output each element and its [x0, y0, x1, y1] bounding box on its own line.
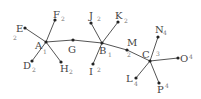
node-label: C — [142, 49, 150, 60]
node-n: N4 — [155, 24, 167, 39]
edge-a-h — [46, 42, 61, 62]
edge-a-g — [46, 40, 73, 42]
node-label: E — [16, 23, 23, 34]
node-subscript: 2 — [124, 17, 128, 24]
node-subscript: 2 — [13, 34, 17, 41]
node-k: K2 — [115, 10, 128, 24]
node-label: I — [89, 66, 93, 77]
edge-g-b — [73, 40, 102, 43]
node-subscript: 2 — [97, 15, 101, 22]
node-g: G — [68, 38, 76, 55]
node-subscript: 2 — [32, 66, 36, 73]
node-i: I2 — [89, 62, 101, 77]
node-subscript: 2 — [69, 68, 73, 75]
node-subscript: 4 — [165, 82, 169, 89]
node-a: A1 — [34, 40, 48, 55]
node-j: J2 — [88, 10, 101, 25]
node-label: F — [53, 9, 60, 20]
node-label: D — [23, 60, 31, 71]
node-d: D2 — [23, 59, 36, 73]
node-subscript: 1 — [43, 48, 47, 55]
node-p: P4 — [157, 81, 169, 95]
node-f: F2 — [53, 9, 65, 22]
node-subscript: 1 — [108, 51, 112, 58]
node-dot — [156, 35, 159, 38]
nodes-group: A1B1C3D2E2F2GH2I2J2K2L4M2N4O4P4 — [13, 9, 193, 95]
node-label: J — [88, 10, 93, 21]
node-o: O4 — [176, 53, 193, 64]
node-subscript: 4 — [134, 80, 138, 87]
edge-b-j — [91, 23, 102, 43]
node-subscript: 4 — [163, 29, 167, 36]
edge-c-o — [150, 58, 178, 61]
node-label: B — [99, 45, 106, 56]
edge-c-n — [150, 37, 158, 61]
edge-a-f — [46, 20, 55, 42]
node-label: P — [157, 84, 164, 95]
node-dot — [89, 21, 92, 24]
tree-diagram: A1B1C3D2E2F2GH2I2J2K2L4M2N4O4P4 — [0, 0, 201, 99]
node-label: L — [126, 73, 133, 84]
node-subscript: 2 — [127, 51, 131, 58]
node-subscript: 3 — [156, 50, 160, 57]
node-m: M2 — [125, 37, 137, 58]
node-label: G — [68, 44, 76, 55]
node-h: H2 — [59, 60, 73, 75]
node-dot — [71, 38, 74, 41]
node-dot — [23, 26, 26, 29]
node-dot — [44, 40, 47, 43]
node-label: M — [127, 37, 137, 48]
edge-c-p — [150, 61, 159, 83]
node-label: K — [115, 10, 123, 21]
node-label: H — [60, 63, 69, 74]
edge-c-l — [136, 61, 150, 78]
node-subscript: 2 — [61, 15, 65, 22]
node-e: E2 — [13, 23, 27, 41]
node-subscript: 2 — [97, 66, 101, 73]
node-subscript: 4 — [189, 53, 193, 60]
node-label: A — [34, 40, 43, 51]
node-l: L4 — [126, 73, 138, 87]
node-label: O — [180, 53, 188, 64]
edge-b-k — [102, 22, 118, 43]
